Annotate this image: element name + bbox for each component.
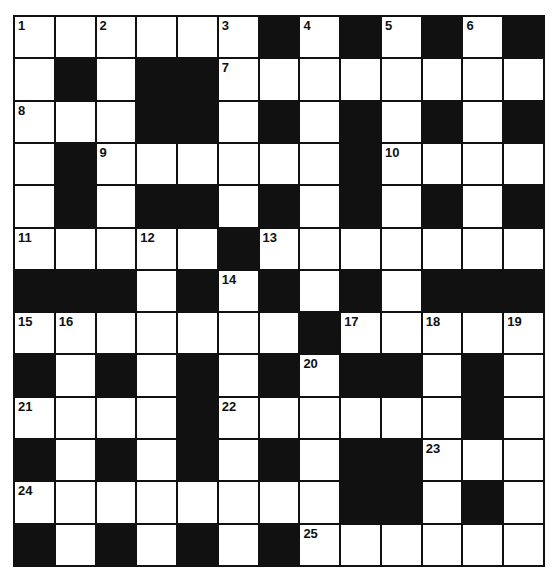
answer-cell[interactable]	[341, 229, 380, 269]
answer-cell[interactable]	[463, 102, 502, 142]
answer-cell[interactable]	[137, 144, 176, 184]
answer-cell[interactable]	[423, 229, 462, 269]
answer-cell[interactable]	[382, 59, 421, 99]
answer-cell[interactable]: 1	[15, 17, 54, 57]
answer-cell[interactable]: 12	[137, 229, 176, 269]
answer-cell[interactable]	[260, 482, 299, 522]
answer-cell[interactable]	[463, 59, 502, 99]
answer-cell[interactable]	[97, 398, 136, 438]
answer-cell[interactable]	[56, 355, 95, 395]
answer-cell[interactable]: 5	[382, 17, 421, 57]
answer-cell[interactable]	[178, 482, 217, 522]
answer-cell[interactable]	[504, 440, 543, 480]
answer-cell[interactable]	[504, 229, 543, 269]
answer-cell[interactable]	[300, 102, 339, 142]
answer-cell[interactable]	[137, 398, 176, 438]
answer-cell[interactable]	[219, 144, 258, 184]
answer-cell[interactable]	[382, 102, 421, 142]
answer-cell[interactable]	[56, 440, 95, 480]
answer-cell[interactable]	[382, 398, 421, 438]
answer-cell[interactable]	[260, 398, 299, 438]
answer-cell[interactable]	[341, 59, 380, 99]
answer-cell[interactable]	[504, 59, 543, 99]
answer-cell[interactable]	[504, 398, 543, 438]
answer-cell[interactable]	[97, 186, 136, 226]
answer-cell[interactable]	[219, 440, 258, 480]
answer-cell[interactable]	[423, 59, 462, 99]
answer-cell[interactable]	[463, 186, 502, 226]
answer-cell[interactable]	[504, 355, 543, 395]
answer-cell[interactable]	[15, 144, 54, 184]
answer-cell[interactable]: 15	[15, 313, 54, 353]
answer-cell[interactable]: 19	[504, 313, 543, 353]
answer-cell[interactable]: 3	[219, 17, 258, 57]
answer-cell[interactable]: 10	[382, 144, 421, 184]
answer-cell[interactable]	[137, 525, 176, 565]
answer-cell[interactable]	[463, 440, 502, 480]
answer-cell[interactable]: 18	[423, 313, 462, 353]
answer-cell[interactable]	[137, 440, 176, 480]
answer-cell[interactable]: 9	[97, 144, 136, 184]
answer-cell[interactable]: 14	[219, 271, 258, 311]
answer-cell[interactable]	[97, 102, 136, 142]
answer-cell[interactable]	[97, 229, 136, 269]
answer-cell[interactable]	[178, 313, 217, 353]
answer-cell[interactable]: 17	[341, 313, 380, 353]
answer-cell[interactable]	[300, 229, 339, 269]
answer-cell[interactable]	[15, 59, 54, 99]
answer-cell[interactable]	[300, 440, 339, 480]
answer-cell[interactable]	[56, 482, 95, 522]
answer-cell[interactable]: 6	[463, 17, 502, 57]
answer-cell[interactable]	[137, 355, 176, 395]
answer-cell[interactable]	[504, 525, 543, 565]
answer-cell[interactable]	[137, 313, 176, 353]
answer-cell[interactable]	[219, 186, 258, 226]
answer-cell[interactable]	[382, 525, 421, 565]
answer-cell[interactable]	[300, 144, 339, 184]
answer-cell[interactable]: 21	[15, 398, 54, 438]
answer-cell[interactable]	[97, 482, 136, 522]
answer-cell[interactable]: 13	[260, 229, 299, 269]
answer-cell[interactable]: 20	[300, 355, 339, 395]
answer-cell[interactable]: 11	[15, 229, 54, 269]
answer-cell[interactable]	[341, 398, 380, 438]
answer-cell[interactable]	[56, 102, 95, 142]
answer-cell[interactable]: 8	[15, 102, 54, 142]
answer-cell[interactable]: 16	[56, 313, 95, 353]
answer-cell[interactable]	[178, 144, 217, 184]
answer-cell[interactable]	[341, 525, 380, 565]
answer-cell[interactable]	[423, 144, 462, 184]
answer-cell[interactable]	[382, 229, 421, 269]
answer-cell[interactable]	[423, 355, 462, 395]
answer-cell[interactable]	[423, 398, 462, 438]
answer-cell[interactable]	[137, 482, 176, 522]
answer-cell[interactable]	[504, 482, 543, 522]
answer-cell[interactable]	[260, 59, 299, 99]
answer-cell[interactable]: 24	[15, 482, 54, 522]
answer-cell[interactable]	[463, 229, 502, 269]
answer-cell[interactable]	[178, 229, 217, 269]
answer-cell[interactable]	[300, 398, 339, 438]
answer-cell[interactable]	[137, 271, 176, 311]
answer-cell[interactable]	[56, 229, 95, 269]
answer-cell[interactable]	[423, 482, 462, 522]
answer-cell[interactable]	[463, 525, 502, 565]
answer-cell[interactable]: 2	[97, 17, 136, 57]
answer-cell[interactable]	[260, 144, 299, 184]
answer-cell[interactable]	[260, 313, 299, 353]
answer-cell[interactable]	[423, 525, 462, 565]
answer-cell[interactable]	[382, 186, 421, 226]
answer-cell[interactable]	[300, 271, 339, 311]
answer-cell[interactable]	[300, 186, 339, 226]
answer-cell[interactable]: 22	[219, 398, 258, 438]
answer-cell[interactable]	[97, 59, 136, 99]
answer-cell[interactable]	[219, 313, 258, 353]
answer-cell[interactable]	[15, 186, 54, 226]
answer-cell[interactable]: 25	[300, 525, 339, 565]
answer-cell[interactable]	[463, 313, 502, 353]
answer-cell[interactable]	[56, 17, 95, 57]
answer-cell[interactable]	[382, 313, 421, 353]
answer-cell[interactable]	[219, 482, 258, 522]
answer-cell[interactable]	[300, 482, 339, 522]
answer-cell[interactable]	[504, 144, 543, 184]
